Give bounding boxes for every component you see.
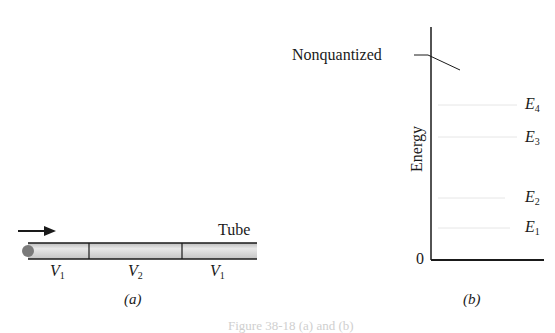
level-label-e4: E4 [525, 95, 540, 114]
level-label-e2: E2 [525, 188, 540, 207]
level-label-e1: E1 [525, 218, 540, 237]
level-label-e3: E3 [525, 128, 540, 147]
zero-label: 0 [416, 250, 424, 268]
panel-b-graphics [0, 0, 555, 333]
figure-caption: Figure 38-18 (a) and (b) [228, 318, 354, 333]
nonquantized-label: Nonquantized [292, 46, 382, 64]
energy-axis-label: Energy [408, 114, 426, 184]
nonquantized-leader [414, 55, 460, 70]
panel-b-label: (b) [463, 291, 481, 308]
